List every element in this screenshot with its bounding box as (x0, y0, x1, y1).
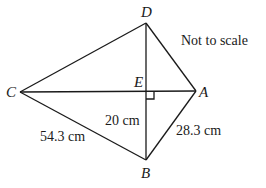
length-label-CB: 54.3 cm (40, 129, 85, 144)
point-label-D: D (140, 4, 152, 20)
point-label-B: B (141, 165, 150, 181)
length-label-EB: 20 cm (105, 113, 140, 128)
not-to-scale-note: Not to scale (181, 33, 248, 48)
segment-CA (20, 91, 196, 92)
segment-CD (20, 23, 146, 92)
point-label-E: E (133, 74, 143, 90)
right-angle-marker (146, 91, 154, 99)
kite-diagram: D C E A B Not to scale 54.3 cm 20 cm 28.… (0, 0, 266, 188)
point-label-A: A (198, 84, 209, 100)
length-label-AB: 28.3 cm (176, 123, 221, 138)
point-label-C: C (6, 84, 17, 100)
